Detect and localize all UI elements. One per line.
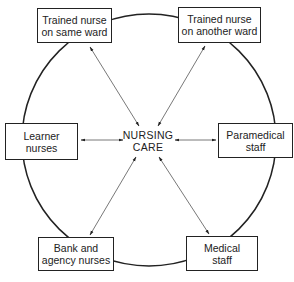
- node-paramedical-staff: Paramedical staff: [218, 123, 293, 158]
- center-line1: NURSING: [120, 129, 176, 141]
- node-trained-nurse-another-ward: Trained nurse on another ward: [178, 7, 261, 43]
- arrow-trained-another: [158, 46, 205, 126]
- arrow-trained-same: [90, 47, 139, 126]
- nursing-care-label: NURSING CARE: [120, 129, 176, 153]
- node-label-line1: Bank and: [54, 242, 98, 254]
- node-label-line1: Medical: [204, 242, 240, 254]
- node-label-line1: Trained nurse: [187, 13, 251, 25]
- node-label-line1: Paramedical: [226, 129, 284, 141]
- node-label-line2: on same ward: [42, 26, 108, 38]
- arrow-medical: [159, 157, 209, 234]
- node-bank-agency-nurses: Bank and agency nurses: [38, 237, 114, 271]
- node-label-line2: nurses: [26, 142, 58, 154]
- node-medical-staff: Medical staff: [186, 236, 258, 271]
- node-label-line2: staff: [212, 254, 232, 266]
- center-line2: CARE: [120, 141, 176, 153]
- node-label-line1: Learner: [23, 130, 59, 142]
- node-label-line2: agency nurses: [42, 254, 110, 266]
- node-trained-nurse-same-ward: Trained nurse on same ward: [37, 8, 112, 43]
- node-label-line2: on another ward: [182, 25, 258, 37]
- arrow-bank: [90, 157, 136, 235]
- node-label-line2: staff: [246, 141, 266, 153]
- node-learner-nurses: Learner nurses: [5, 123, 78, 160]
- node-label-line1: Trained nurse: [42, 14, 106, 26]
